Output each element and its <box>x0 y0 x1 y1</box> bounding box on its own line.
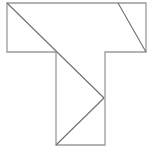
tangram-figure-canvas <box>0 0 155 156</box>
t-shape-outline-stroke <box>7 3 146 145</box>
tangram-svg <box>0 0 155 156</box>
